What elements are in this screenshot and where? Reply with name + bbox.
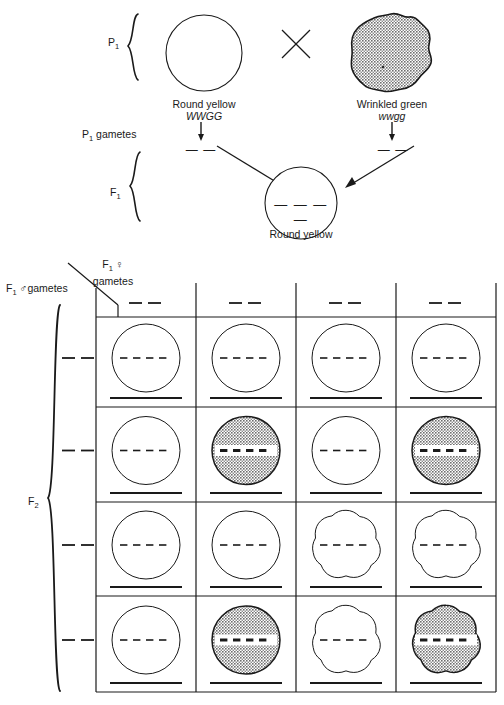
f1-generation-label: F1 [110, 186, 121, 203]
punnett-header-diagonal [68, 263, 118, 317]
f1-offspring-phenotype: Round yellow [241, 228, 361, 241]
punnett-cell-r3-c2 [210, 511, 282, 587]
p1-right-down-arrow-icon [386, 122, 398, 142]
punnett-cell-r3-c3 [310, 510, 382, 587]
punnett-cell-r2-c2 [210, 417, 282, 494]
p1-generation-label: P1 [108, 36, 119, 53]
figure-canvas: P1 Round yellow WWGG [0, 0, 504, 705]
p1-parent-left-pea [163, 12, 245, 94]
punnett-cell-r1-c1 [110, 324, 182, 398]
punnett-cell-r4-c2 [210, 606, 282, 683]
punnett-cell-r1-c2 [210, 324, 282, 398]
p1-gametes-label: P1 gametes [82, 128, 136, 145]
p1-parent-right-phenotype: Wrinkled green [332, 98, 452, 111]
p1-parent-left-phenotype: Round yellow [144, 98, 264, 111]
p1-parent-left-genotype: WWGG [144, 110, 264, 123]
punnett-square-grid [0, 255, 504, 705]
p1-left-down-arrow-icon [195, 122, 207, 142]
punnett-cell-r2-c1 [110, 417, 182, 494]
punnett-cell-r3-c1 [110, 511, 182, 587]
punnett-cell-r2-c4 [410, 417, 482, 494]
p1-brace [126, 12, 142, 82]
p1-parent-right-pea [347, 10, 437, 96]
cross-symbol-x [279, 27, 313, 61]
p1-parent-right-genotype: wwgg [332, 110, 452, 123]
punnett-cell-r2-c3 [310, 417, 382, 494]
punnett-cell-r4-c3 [310, 605, 382, 683]
punnett-cell-r1-c4 [410, 324, 482, 398]
punnett-cell-r4-c1 [110, 606, 182, 683]
punnett-cell-r4-c4 [410, 605, 482, 683]
punnett-cell-r1-c3 [310, 324, 382, 398]
f1-offspring-genotype-blank: — — — — [268, 197, 334, 227]
punnett-cell-r3-c4 [410, 510, 482, 587]
f1-brace [128, 150, 144, 224]
f1-right-fertilization-arrow-icon [340, 143, 416, 195]
